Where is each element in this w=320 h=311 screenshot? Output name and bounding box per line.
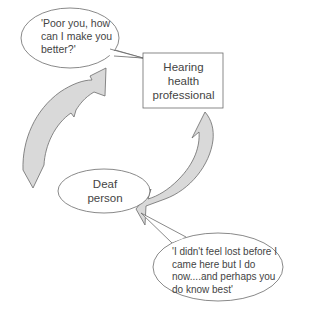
deaf-line-2: person <box>70 191 140 205</box>
professional-line-1: Hearing <box>144 60 223 74</box>
deaf-person-label: Deaf person <box>70 177 140 205</box>
bottom-speech-bubble-text: 'I didn't feel lost before I came here b… <box>172 246 284 296</box>
right-curved-arrow-icon <box>136 112 213 225</box>
bottom-bubble-line-3: now....and perhaps you <box>172 271 284 284</box>
bottom-bubble-line-4: do know best' <box>172 284 284 297</box>
bottom-bubble-line-2: came here but I do <box>172 259 284 272</box>
professional-line-3: professional <box>144 88 223 102</box>
professional-box-label: Hearing health professional <box>144 60 223 102</box>
professional-line-2: health <box>144 74 223 88</box>
deaf-line-1: Deaf <box>70 177 140 191</box>
top-speech-bubble-text: 'Poor you, how can I make you better?' <box>41 17 117 56</box>
top-bubble-line-3: better?' <box>41 43 117 56</box>
bottom-bubble-line-1: 'I didn't feel lost before I <box>172 246 284 259</box>
top-bubble-line-1: 'Poor you, how <box>41 17 117 30</box>
top-bubble-line-2: can I make you <box>41 30 117 43</box>
